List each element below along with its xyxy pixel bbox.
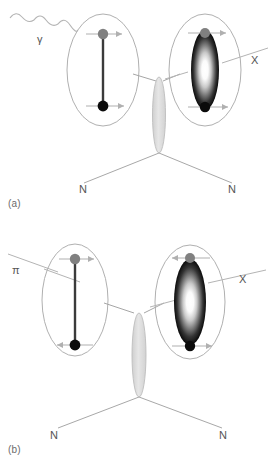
nucleon-line-right-b: [139, 397, 222, 428]
meson-line-b-left: [150, 300, 176, 307]
nucleon-label-right-b: N: [219, 429, 227, 441]
meson-gradient-blob-b: [174, 259, 206, 345]
meson-line-b: [208, 270, 266, 283]
nucleon-line-right-a: [159, 153, 232, 183]
bottom-quark-a: [98, 101, 109, 112]
nucleon-line-left-b: [58, 397, 139, 428]
top-quark-b: [70, 254, 80, 264]
physics-diagram: γ X N N: [0, 0, 273, 466]
nucleon-label-left-a: N: [79, 183, 87, 195]
exchange-lens-b: [132, 313, 146, 397]
bottom-quark-b: [70, 340, 81, 351]
panel-label-b: (b): [8, 444, 21, 455]
nucleon-label-left-b: N: [50, 429, 58, 441]
right-top-quark-a: [200, 28, 210, 38]
panel-label-a: (a): [8, 198, 21, 209]
panel-a: γ X N N: [10, 14, 268, 195]
meson-gradient-blob-a: [191, 30, 219, 110]
right-bottom-quark-b: [185, 341, 195, 351]
nucleon-line-left-a: [84, 153, 159, 183]
left-vertex-line-a: [133, 74, 156, 81]
photon-label-a: γ: [37, 33, 43, 45]
left-vertex-line-b: [104, 303, 134, 313]
right-top-quark-b: [185, 253, 195, 263]
nucleon-label-right-a: N: [228, 183, 236, 195]
photon-wavy-line: [10, 14, 78, 31]
meson-line-a: [222, 48, 268, 63]
top-quark-a: [98, 29, 108, 39]
exchange-lens-a: [153, 77, 166, 153]
meson-label-b: X: [239, 273, 247, 285]
pion-label-b: π: [12, 264, 20, 276]
meson-line-a-left: [165, 72, 188, 79]
right-bottom-quark-a: [200, 102, 210, 112]
meson-label-a: X: [251, 54, 259, 66]
panel-b: π X N N: [8, 244, 266, 441]
